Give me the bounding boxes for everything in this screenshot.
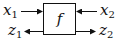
variable-subscript: 2 — [107, 29, 113, 39]
variable-subscript: 2 — [108, 9, 114, 20]
variable-subscript: 1 — [11, 9, 17, 20]
variable-name: z — [99, 21, 107, 39]
input-x2-label: x2 — [100, 3, 115, 22]
variable-name: z — [8, 21, 16, 39]
block-diagram: f x1 z1 x2 z2 — [0, 0, 120, 39]
input-x1-label: x1 — [3, 3, 18, 22]
variable-subscript: 1 — [16, 29, 22, 39]
output-z2-label: z2 — [99, 23, 113, 39]
block-label: f — [43, 3, 76, 35]
output-z1-label: z1 — [8, 23, 22, 39]
